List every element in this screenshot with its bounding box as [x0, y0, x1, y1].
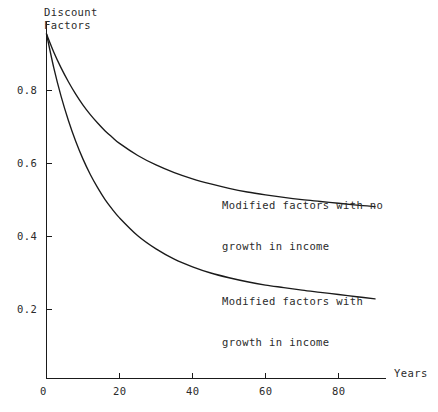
y-axis-title: Discount Factors [44, 6, 98, 32]
annotation-no-growth: Modified factors with no growth in incom… [222, 172, 383, 280]
x-tick-label-60: 60 [259, 385, 272, 397]
annotation-no-growth-line1: Modified factors with no [222, 199, 383, 213]
y-tick-label-0.6: 0.6 [17, 157, 37, 169]
y-axis-title-line1: Discount [44, 6, 98, 19]
y-tick-label-0.4: 0.4 [17, 230, 37, 242]
x-axis-title: Years [394, 367, 428, 379]
x-tick-label-0: 0 [40, 385, 47, 397]
annotation-with-growth-line2: growth in income [222, 336, 363, 350]
x-tick-label-40: 40 [186, 385, 199, 397]
annotation-with-growth-line1: Modified factors with [222, 295, 363, 309]
x-tick-label-20: 20 [113, 385, 126, 397]
y-tick-label-0.2: 0.2 [17, 303, 37, 315]
y-tick-label-0.8: 0.8 [17, 84, 37, 96]
discount-factors-chart: Discount Factors Years 0.8 0.6 0.4 0.2 0… [0, 0, 438, 412]
y-axis-title-line2: Factors [44, 19, 98, 32]
x-tick-label-80: 80 [332, 385, 345, 397]
annotation-no-growth-line2: growth in income [222, 240, 383, 254]
y-tick-marks [47, 91, 52, 310]
annotation-with-growth: Modified factors with growth in income [222, 268, 363, 376]
